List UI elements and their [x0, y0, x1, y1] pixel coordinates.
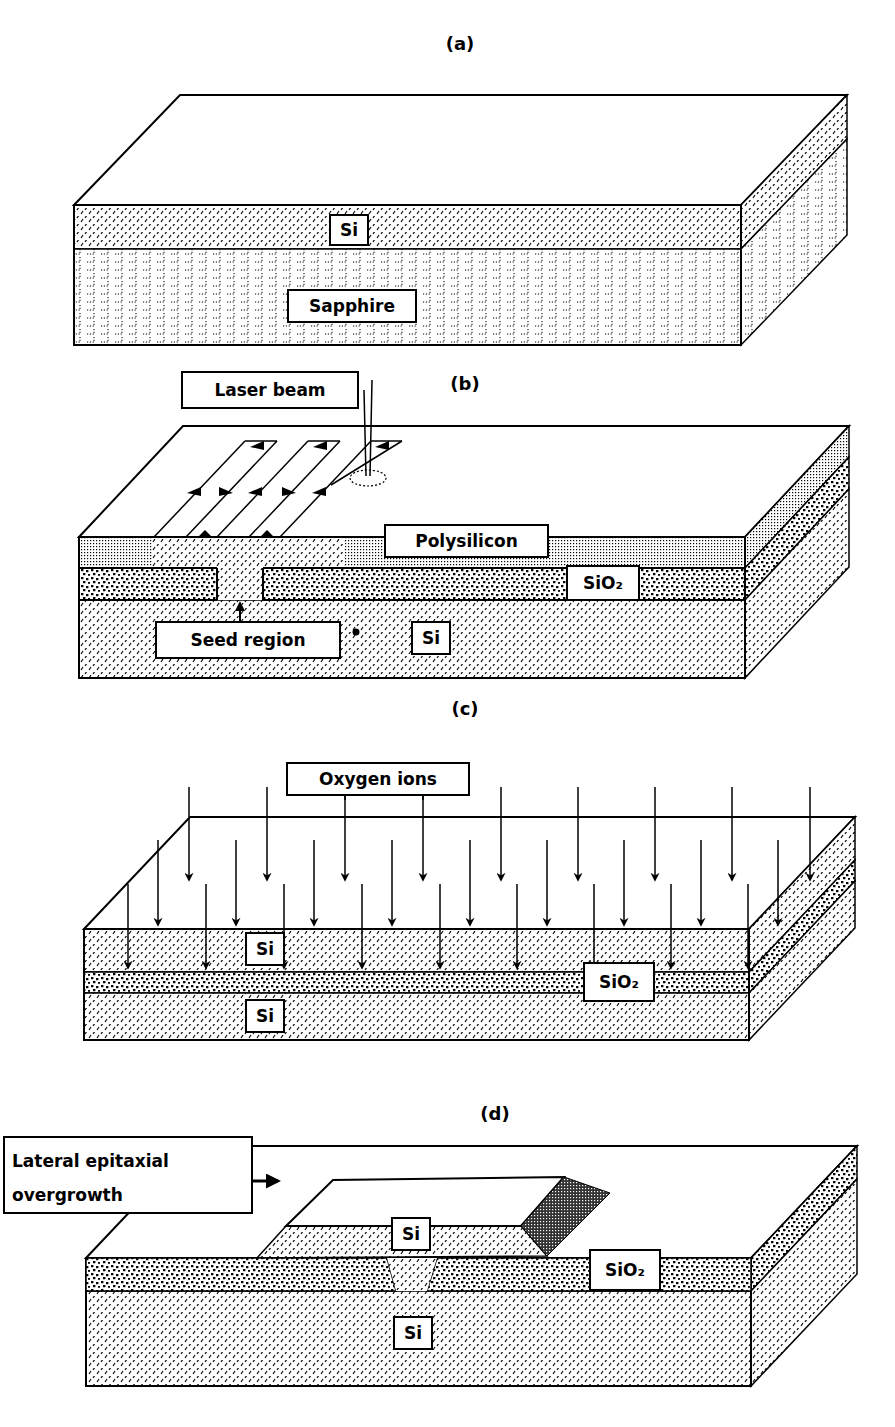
- svg-text:SiO₂: SiO₂: [599, 972, 639, 992]
- label-si: Si: [394, 1317, 432, 1349]
- svg-text:Sapphire: Sapphire: [309, 296, 395, 316]
- svg-text:Si: Si: [340, 220, 358, 240]
- svg-text:Si: Si: [402, 1224, 420, 1244]
- label-si: Si: [330, 215, 368, 245]
- svg-text:Si: Si: [256, 1006, 274, 1026]
- svg-text:Si: Si: [404, 1323, 422, 1343]
- top-face: [79, 426, 849, 537]
- label-si: Si: [246, 1000, 284, 1032]
- oxide-left: [86, 1258, 396, 1291]
- svg-text:Si: Si: [422, 628, 440, 648]
- label-laser-beam: Laser beam: [182, 372, 358, 408]
- svg-text:Oxygen ions: Oxygen ions: [319, 769, 437, 789]
- seed-opening: [217, 568, 263, 600]
- svg-text:Si: Si: [256, 939, 274, 959]
- panel-label: (c): [451, 698, 478, 719]
- label-sio-: SiO₂: [567, 566, 639, 600]
- svg-text:Lateral epitaxial: Lateral epitaxial: [12, 1151, 169, 1171]
- panel-d: (d)Lateral epitaxialovergrowthSiSiO₂Si: [4, 1103, 857, 1386]
- soi-fabrication-figure: (a)SiSapphire(b)Laser beamPolysiliconSiO…: [0, 0, 895, 1427]
- label-si: Si: [392, 1218, 430, 1250]
- svg-text:Seed region: Seed region: [190, 630, 305, 650]
- label-sapphire: Sapphire: [288, 290, 416, 322]
- label-si: Si: [246, 933, 284, 965]
- label-sio-: SiO₂: [584, 963, 654, 1001]
- recrystallized-region: [152, 538, 345, 568]
- front-layer-sio2: [79, 568, 745, 600]
- panel-a: (a)SiSapphire: [74, 33, 847, 345]
- label-oxygen-ions: Oxygen ions: [287, 763, 469, 795]
- svg-text:Laser beam: Laser beam: [214, 380, 325, 400]
- label-polysilicon: Polysilicon: [385, 525, 548, 557]
- panel-label: (a): [446, 33, 475, 54]
- panel-label: (b): [450, 373, 479, 394]
- panel-b: (b)Laser beamPolysiliconSiO₂Seed regionS…: [79, 372, 849, 678]
- svg-text:Polysilicon: Polysilicon: [415, 531, 518, 551]
- svg-text:SiO₂: SiO₂: [583, 573, 623, 593]
- top-face: [74, 95, 847, 205]
- svg-text:overgrowth: overgrowth: [12, 1185, 123, 1205]
- label-sio-: SiO₂: [590, 1250, 660, 1290]
- label-si: Si: [412, 622, 450, 654]
- panels-layer: (a)SiSapphire(b)Laser beamPolysiliconSiO…: [4, 33, 857, 1386]
- label-seed-region: Seed region: [156, 622, 340, 658]
- panel-c: (c)Oxygen ionsSiSiO₂Si: [84, 698, 855, 1040]
- front-layer-si: [74, 205, 741, 249]
- label-lateral-epitaxial: Lateral epitaxialovergrowth: [4, 1137, 252, 1213]
- svg-text:SiO₂: SiO₂: [605, 1260, 645, 1280]
- panel-label: (d): [480, 1103, 509, 1124]
